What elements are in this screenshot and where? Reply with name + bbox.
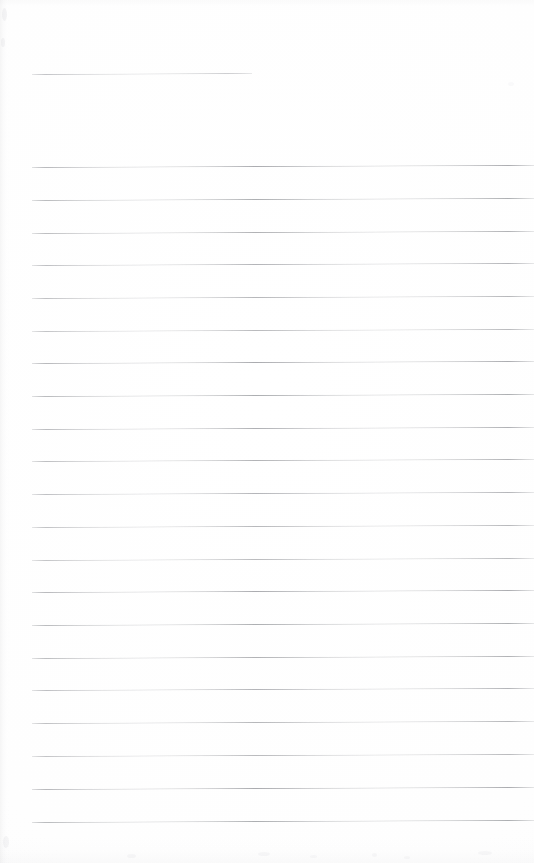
scan-speck bbox=[404, 856, 410, 859]
ruled-line bbox=[32, 787, 534, 790]
scan-speck bbox=[127, 854, 136, 858]
scan-speck bbox=[2, 8, 7, 21]
ruled-line bbox=[32, 623, 534, 626]
scan-speck bbox=[478, 851, 492, 855]
ruled-line bbox=[32, 329, 534, 332]
ruled-line bbox=[32, 296, 534, 299]
scan-edge-bottom bbox=[0, 837, 534, 863]
ruled-line bbox=[32, 361, 534, 364]
ruled-line bbox=[32, 394, 534, 397]
ruled-line bbox=[32, 427, 534, 430]
ruled-line bbox=[32, 492, 534, 495]
ruled-line bbox=[32, 590, 534, 593]
ruled-line bbox=[32, 165, 534, 168]
scan-speck bbox=[1, 38, 5, 47]
scan-speck bbox=[258, 852, 270, 856]
scan-speck bbox=[508, 82, 514, 86]
ruled-line bbox=[32, 721, 534, 724]
ruled-line bbox=[32, 198, 534, 201]
ruled-line bbox=[32, 754, 534, 757]
ruled-line bbox=[32, 688, 534, 691]
paper-surface bbox=[0, 0, 534, 863]
scan-speck bbox=[310, 855, 317, 858]
scan-edge-left bbox=[0, 0, 9, 863]
ruled-line bbox=[32, 525, 534, 528]
scan-speck bbox=[3, 836, 9, 848]
header-rule bbox=[32, 73, 252, 75]
scanned-page bbox=[0, 0, 534, 863]
ruled-line bbox=[32, 820, 534, 823]
ruled-line bbox=[32, 656, 534, 659]
ruled-line bbox=[32, 231, 534, 234]
scan-speck bbox=[372, 853, 377, 857]
scan-edge-top bbox=[0, 0, 534, 6]
ruled-line bbox=[32, 263, 534, 266]
ruled-line bbox=[32, 459, 534, 462]
ruled-line bbox=[32, 558, 534, 561]
